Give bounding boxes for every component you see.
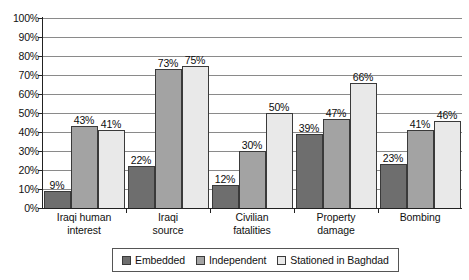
- bar-group-inner: 23%41%46%: [378, 18, 462, 208]
- y-tick-label-0: 0%: [1, 203, 39, 214]
- y-tick-label-100: 100%: [1, 13, 39, 24]
- x-axis-category-label: Propertydamage: [294, 211, 378, 236]
- y-axis-ticks: 100% 90% 80% 70% 60% 50% 40% 30% 20% 10%…: [0, 18, 39, 208]
- y-tick-label-20: 20%: [1, 165, 39, 176]
- bar-value-label: 41%: [410, 119, 430, 130]
- bar-value-label: 12%: [215, 174, 235, 185]
- legend-label: Stationed in Baghdad: [290, 255, 388, 266]
- bar-value-label: 30%: [242, 140, 262, 151]
- bar-value-label: 22%: [131, 155, 151, 166]
- y-tick-label-70: 70%: [1, 70, 39, 81]
- bar-groups: 9%43%41%22%73%75%12%30%50%39%47%66%23%41…: [42, 18, 462, 208]
- x-axis-category-labels: Iraqi humaninterestIraqisourceCivilianfa…: [42, 211, 462, 236]
- legend-item[interactable]: Embedded: [122, 255, 185, 266]
- y-tick-label-10: 10%: [1, 184, 39, 195]
- y-tick-label-90: 90%: [1, 32, 39, 43]
- legend-label: Embedded: [135, 255, 185, 266]
- bar[interactable]: 30%: [239, 151, 266, 208]
- bar[interactable]: 39%: [296, 134, 323, 208]
- bar-value-label: 9%: [50, 180, 65, 191]
- bar-value-label: 46%: [437, 110, 457, 121]
- bar-value-label: 39%: [299, 123, 319, 134]
- y-tick-label-40: 40%: [1, 127, 39, 138]
- bar-group: 22%73%75%: [126, 18, 210, 208]
- bar-group: 9%43%41%: [42, 18, 126, 208]
- bar-value-label: 23%: [383, 153, 403, 164]
- bar[interactable]: 22%: [128, 166, 155, 208]
- x-axis-category-label: Civilianfatalities: [210, 211, 294, 236]
- y-tick-label-30: 30%: [1, 146, 39, 157]
- bar[interactable]: 46%: [434, 121, 461, 208]
- bar[interactable]: 47%: [323, 119, 350, 208]
- bar-value-label: 41%: [101, 119, 121, 130]
- bar-group: 23%41%46%: [378, 18, 462, 208]
- y-tick-label-60: 60%: [1, 89, 39, 100]
- bar[interactable]: 73%: [155, 69, 182, 208]
- bar[interactable]: 12%: [212, 185, 239, 208]
- bar-group-inner: 12%30%50%: [210, 18, 294, 208]
- bar-chart: 100% 90% 80% 70% 60% 50% 40% 30% 20% 10%…: [0, 0, 469, 280]
- y-tick-label-50: 50%: [1, 108, 39, 119]
- bar-group: 12%30%50%: [210, 18, 294, 208]
- y-tick-label-80: 80%: [1, 51, 39, 62]
- bar[interactable]: 43%: [71, 126, 98, 208]
- bar[interactable]: 50%: [266, 113, 293, 208]
- bar-group-inner: 9%43%41%: [42, 18, 126, 208]
- bar-group: 39%47%66%: [294, 18, 378, 208]
- bar[interactable]: 66%: [350, 83, 377, 208]
- x-axis-category-label: Iraqi humaninterest: [42, 211, 126, 236]
- bar-value-label: 43%: [74, 115, 94, 126]
- chart-legend: EmbeddedIndependentStationed in Baghdad: [112, 248, 399, 272]
- legend-item[interactable]: Stationed in Baghdad: [277, 255, 388, 266]
- bar-group-inner: 22%73%75%: [126, 18, 210, 208]
- bar[interactable]: 41%: [407, 130, 434, 208]
- legend-swatch-icon: [196, 256, 205, 265]
- x-axis-baseline: [42, 208, 462, 209]
- bar[interactable]: 23%: [380, 164, 407, 208]
- bar-value-label: 75%: [185, 55, 205, 66]
- legend-label: Independent: [209, 255, 266, 266]
- bar[interactable]: 75%: [182, 66, 209, 209]
- bar-value-label: 50%: [269, 102, 289, 113]
- bar-value-label: 66%: [353, 72, 373, 83]
- x-axis-category-label: Iraqisource: [126, 211, 210, 236]
- x-axis-category-label: Bombing: [378, 211, 462, 236]
- bar-value-label: 47%: [326, 108, 346, 119]
- legend-swatch-icon: [122, 256, 131, 265]
- legend-item[interactable]: Independent: [196, 255, 266, 266]
- bar[interactable]: 9%: [44, 191, 71, 208]
- bar-group-inner: 39%47%66%: [294, 18, 378, 208]
- bar[interactable]: 41%: [98, 130, 125, 208]
- bar-value-label: 73%: [158, 58, 178, 69]
- legend-swatch-icon: [277, 256, 286, 265]
